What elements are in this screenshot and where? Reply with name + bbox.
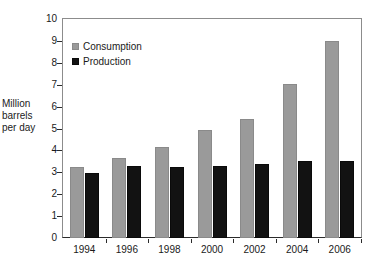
y-tick-label: 3 bbox=[37, 167, 57, 177]
x-tick-mark bbox=[106, 239, 107, 243]
bar-production[interactable] bbox=[298, 161, 312, 238]
bar-group bbox=[240, 19, 269, 238]
bar-production[interactable] bbox=[255, 164, 269, 238]
bar-production[interactable] bbox=[213, 166, 227, 238]
y-tick-label: 4 bbox=[37, 145, 57, 155]
x-tick-mark bbox=[233, 239, 234, 243]
y-tick-mark bbox=[57, 172, 62, 173]
y-tick-label: 1 bbox=[37, 211, 57, 221]
bar-chart: Million barrels per day ConsumptionProdu… bbox=[0, 0, 387, 264]
x-tick-label: 2002 bbox=[233, 244, 277, 256]
y-tick-label: 5 bbox=[37, 124, 57, 134]
y-tick-label: 9 bbox=[37, 36, 57, 46]
y-tick-mark bbox=[57, 41, 62, 42]
bar-production[interactable] bbox=[170, 167, 184, 238]
y-tick-mark bbox=[57, 85, 62, 86]
chart-legend: ConsumptionProduction bbox=[72, 40, 142, 70]
x-tick-label: 2006 bbox=[318, 244, 362, 256]
legend-item[interactable]: Production bbox=[72, 55, 142, 68]
y-tick-mark bbox=[57, 216, 62, 217]
x-tick-label: 1998 bbox=[147, 244, 191, 256]
bar-consumption[interactable] bbox=[325, 41, 339, 238]
x-tick-mark bbox=[191, 239, 192, 243]
y-tick-mark bbox=[57, 107, 62, 108]
bar-consumption[interactable] bbox=[112, 158, 126, 238]
bar-production[interactable] bbox=[85, 173, 99, 238]
y-tick-mark bbox=[57, 150, 62, 151]
y-tick-label: 7 bbox=[37, 80, 57, 90]
x-tick-label: 1996 bbox=[105, 244, 149, 256]
y-tick-mark bbox=[57, 63, 62, 64]
bar-consumption[interactable] bbox=[155, 147, 169, 238]
x-tick-mark bbox=[276, 239, 277, 243]
bar-consumption[interactable] bbox=[198, 130, 212, 238]
x-tick-mark bbox=[361, 239, 362, 243]
legend-label: Production bbox=[83, 56, 131, 67]
x-tick-mark bbox=[148, 239, 149, 243]
legend-swatch-icon bbox=[72, 58, 79, 65]
bar-group bbox=[325, 19, 354, 238]
bar-consumption[interactable] bbox=[240, 119, 254, 238]
x-tick-label: 2004 bbox=[275, 244, 319, 256]
bar-consumption[interactable] bbox=[283, 84, 297, 238]
legend-item[interactable]: Consumption bbox=[72, 40, 142, 53]
bar-group bbox=[198, 19, 227, 238]
y-tick-label: 8 bbox=[37, 58, 57, 68]
bar-production[interactable] bbox=[127, 166, 141, 238]
x-tick-mark bbox=[318, 239, 319, 243]
x-tick-label: 1994 bbox=[62, 244, 106, 256]
bar-consumption[interactable] bbox=[70, 167, 84, 238]
bar-group bbox=[283, 19, 312, 238]
y-tick-label: 0 bbox=[37, 233, 57, 243]
legend-label: Consumption bbox=[83, 41, 142, 52]
legend-swatch-icon bbox=[72, 43, 79, 50]
y-tick-label: 6 bbox=[37, 102, 57, 112]
bar-production[interactable] bbox=[340, 161, 354, 238]
y-tick-label: 2 bbox=[37, 189, 57, 199]
y-tick-mark bbox=[57, 194, 62, 195]
bar-group bbox=[155, 19, 184, 238]
y-tick-mark bbox=[57, 129, 62, 130]
y-tick-label: 10 bbox=[37, 14, 57, 24]
x-tick-label: 2000 bbox=[190, 244, 234, 256]
y-axis-title-line-2: barrels bbox=[2, 110, 44, 122]
